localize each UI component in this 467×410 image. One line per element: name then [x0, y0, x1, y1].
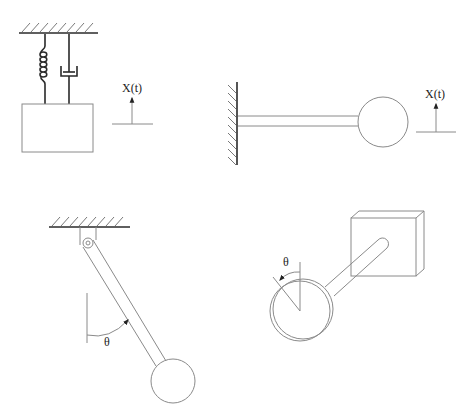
mass-block [22, 104, 93, 152]
pendulum-bob [151, 359, 195, 403]
disk [270, 279, 333, 341]
wall-hatch [228, 82, 237, 165]
angle-indicator-2 [273, 262, 300, 311]
fixed-block [351, 211, 424, 276]
ceiling-hatch [19, 23, 98, 33]
theta-label-2: θ [283, 255, 289, 269]
damper [61, 34, 77, 104]
simple-pendulum-diagram: θ [49, 217, 195, 403]
cantilever-beam-diagram: X(t) [228, 82, 456, 165]
displacement-arrow [112, 98, 153, 124]
theta-label: θ [104, 335, 110, 349]
beam [238, 116, 358, 126]
displacement-label: X(t) [122, 81, 142, 95]
spring-mass-damper-diagram: X(t) [19, 23, 153, 152]
ceiling-hatch-2 [49, 217, 130, 227]
pendulum-rod [83, 240, 166, 366]
displacement-arrow-2 [416, 104, 456, 132]
torsional-pendulum-diagram: θ [270, 211, 424, 341]
spring [40, 34, 47, 104]
displacement-label-2: X(t) [425, 87, 445, 101]
shaft [325, 238, 389, 296]
end-mass [358, 97, 408, 147]
pivot-bracket [80, 227, 96, 248]
